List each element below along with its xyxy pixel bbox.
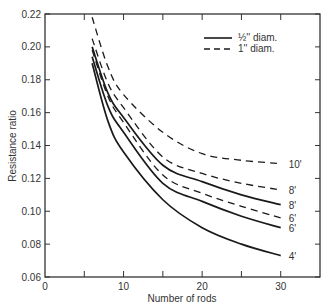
curve-solid [92,63,281,255]
curve-label: 10' [289,159,302,170]
curve-label: 4' [289,251,297,262]
y-tick-label: 0.08 [22,239,42,250]
curve-label: 8' [289,185,297,196]
x-axis-ticks: 0102030 [42,14,286,292]
curve-solid [92,57,281,228]
legend: ½'' diam. 1'' diam. [204,32,277,54]
curve-label: 8' [289,200,297,211]
curve-label: 6' [289,223,297,234]
x-tick-label: 0 [42,281,48,292]
curve-dashed [92,50,281,218]
x-tick-label: 20 [197,281,209,292]
curve-solid [92,47,281,205]
y-tick-label: 0.10 [22,206,42,217]
x-tick-label: 30 [275,281,287,292]
y-tick-label: 0.12 [22,173,42,184]
x-axis-title: Number of rods [148,293,217,304]
y-tick-label: 0.18 [22,74,42,85]
resistance-ratio-chart: 0.060.080.100.120.140.160.180.200.22 010… [0,0,331,308]
curve-labels: 10'8'8'6'6'4' [289,159,302,262]
legend-solid-label: ½'' diam. [238,32,277,43]
y-tick-label: 0.14 [22,140,42,151]
y-axis-title: Resistance ratio [7,110,18,182]
y-axis-ticks: 0.060.080.100.120.140.160.180.200.22 [22,9,320,283]
y-tick-label: 0.16 [22,107,42,118]
y-tick-label: 0.06 [22,272,42,283]
x-tick-label: 10 [118,281,130,292]
legend-dashed-label: 1'' diam. [238,43,275,54]
y-tick-label: 0.22 [22,9,42,20]
y-tick-label: 0.20 [22,41,42,52]
